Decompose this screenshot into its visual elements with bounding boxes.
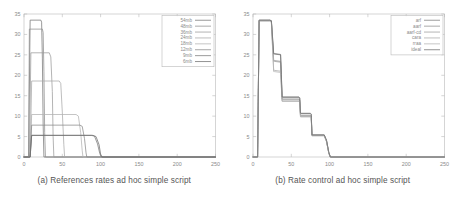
- line-chart-a: 0501001502002500510152025303554mb48mb36m…: [0, 0, 229, 176]
- legend-label-12mb: 12mb: [181, 47, 193, 52]
- x-tick-label: 50: [59, 161, 65, 167]
- x-tick-label: 100: [96, 161, 105, 167]
- x-tick-label: 0: [23, 161, 26, 167]
- y-tick-label: 0: [18, 154, 21, 160]
- y-tick-label: 15: [15, 93, 21, 99]
- y-tick-label: 10: [15, 113, 21, 119]
- panel-a-references-rates: 0501001502002500510152025303554mb48mb36m…: [0, 0, 229, 208]
- y-tick-label: 10: [243, 113, 249, 119]
- legend-label-arf: arf: [415, 18, 421, 23]
- x-tick-label: 200: [173, 161, 182, 167]
- legend-label-48mb: 48mb: [181, 24, 193, 29]
- figure-two-panel-charts: 0501001502002500510152025303554mb48mb36m…: [0, 0, 457, 208]
- legend-label-rraa: rraa: [412, 41, 421, 46]
- y-tick-label: 5: [246, 134, 249, 140]
- y-tick-label: 20: [15, 72, 21, 78]
- x-tick-label: 150: [363, 161, 372, 167]
- caption-a: (a) References rates ad hoc simple scrip…: [0, 176, 229, 185]
- series-line-36mb: [24, 53, 216, 157]
- y-tick-label: 25: [243, 52, 249, 58]
- y-tick-label: 0: [246, 154, 249, 160]
- line-chart-b: 05010015020025005101520253035arfaarfaarf…: [229, 0, 457, 176]
- y-tick-label: 20: [243, 72, 249, 78]
- legend-label-24mb: 24mb: [181, 35, 193, 40]
- legend-label-cara: cara: [412, 35, 421, 40]
- y-tick-label: 35: [15, 11, 21, 17]
- legend-label-ideal: ideal: [411, 47, 421, 52]
- legend-label-54mb: 54mb: [181, 18, 193, 23]
- x-tick-label: 250: [440, 161, 449, 167]
- y-tick-label: 30: [243, 31, 249, 37]
- caption-b: (b) Rate control ad hoc simple script: [229, 176, 457, 185]
- x-tick-label: 250: [211, 161, 220, 167]
- y-tick-label: 30: [15, 31, 21, 37]
- legend-label-6mb: 6mb: [183, 59, 192, 64]
- x-tick-label: 200: [401, 161, 410, 167]
- legend-label-18mb: 18mb: [181, 41, 193, 46]
- legend-label-aarf: aarf: [413, 24, 422, 29]
- legend-label-aarf-cd: aarf-cd: [406, 30, 421, 35]
- y-tick-label: 25: [15, 52, 21, 58]
- plot-area-b: 05010015020025005101520253035arfaarfaarf…: [229, 0, 457, 176]
- panel-b-rate-control: 05010015020025005101520253035arfaarfaarf…: [229, 0, 457, 208]
- y-tick-label: 15: [243, 93, 249, 99]
- legend-label-9mb: 9mb: [183, 53, 192, 58]
- x-tick-label: 50: [288, 161, 294, 167]
- series-line-9mb: [24, 135, 216, 157]
- x-tick-label: 0: [251, 161, 254, 167]
- y-tick-label: 5: [18, 134, 21, 140]
- x-tick-label: 150: [134, 161, 143, 167]
- y-tick-label: 35: [243, 11, 249, 17]
- plot-area-a: 0501001502002500510152025303554mb48mb36m…: [0, 0, 229, 176]
- series-line-6mb: [24, 135, 216, 157]
- x-tick-label: 100: [325, 161, 334, 167]
- legend-label-36mb: 36mb: [181, 30, 193, 35]
